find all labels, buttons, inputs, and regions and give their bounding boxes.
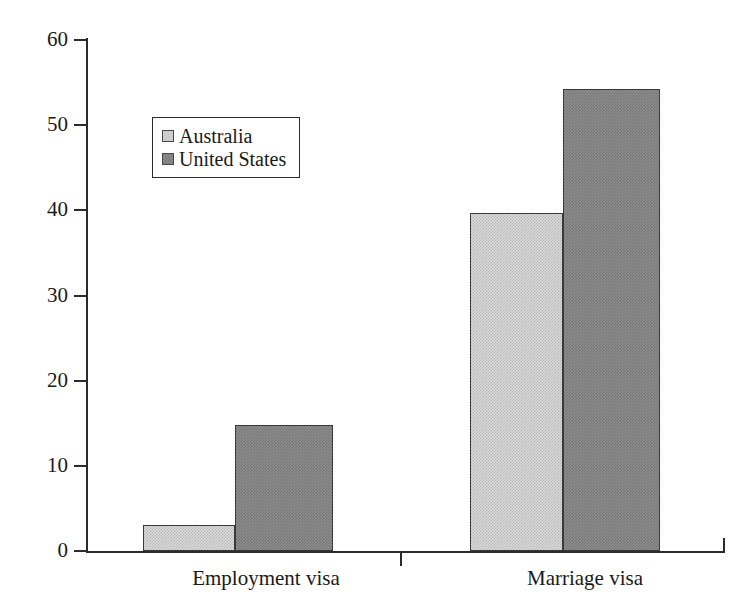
y-axis-tick-label: 60 <box>10 29 68 50</box>
y-axis-tick-label: 40 <box>10 199 68 220</box>
y-axis-tick-label: 0 <box>10 540 68 561</box>
y-axis-tick-label: 50 <box>10 114 68 135</box>
bar-marriage-visa-united-states <box>563 89 660 551</box>
bar-chart: 0102030405060 Employment visa Marriage v… <box>0 0 755 606</box>
bar-marriage-visa-australia <box>470 213 563 551</box>
y-axis-tick-label-wrap: 40 <box>0 199 68 220</box>
x-axis-end-cap <box>723 538 725 552</box>
y-axis-tick-mark <box>74 209 86 211</box>
y-axis-tick-label-wrap: 20 <box>0 370 68 391</box>
y-axis-tick-mark <box>74 39 86 41</box>
y-axis-tick-label-wrap: 50 <box>0 114 68 135</box>
x-axis-line <box>86 551 725 553</box>
legend-item-australia: Australia <box>162 124 290 147</box>
bar-employment-visa-australia <box>143 525 235 551</box>
legend-label-united-states: United States <box>179 148 286 170</box>
legend-swatch-australia-icon <box>162 130 174 142</box>
y-axis-tick-label-wrap: 30 <box>0 285 68 306</box>
y-axis-tick-mark <box>74 550 86 552</box>
y-axis-tick-label: 30 <box>10 285 68 306</box>
y-axis-tick-mark <box>74 295 86 297</box>
y-axis-tick-label-wrap: 10 <box>0 455 68 476</box>
y-axis-tick-label: 20 <box>10 370 68 391</box>
y-axis-tick-label-wrap: 60 <box>0 29 68 50</box>
y-axis-tick-mark <box>74 380 86 382</box>
y-axis-line <box>86 38 88 553</box>
y-axis-tick-label: 10 <box>10 455 68 476</box>
y-axis-tick-label-wrap: 0 <box>0 540 68 561</box>
y-axis-tick-mark <box>74 124 86 126</box>
legend-label-australia: Australia <box>179 125 252 147</box>
legend: Australia United States <box>152 117 300 178</box>
legend-swatch-united-states-icon <box>162 153 174 165</box>
bar-employment-visa-united-states <box>235 425 333 551</box>
category-label-marriage-visa: Marriage visa <box>445 565 725 591</box>
category-label-employment-visa: Employment visa <box>106 565 426 591</box>
legend-item-united-states: United States <box>162 147 290 170</box>
y-axis-tick-mark <box>74 465 86 467</box>
